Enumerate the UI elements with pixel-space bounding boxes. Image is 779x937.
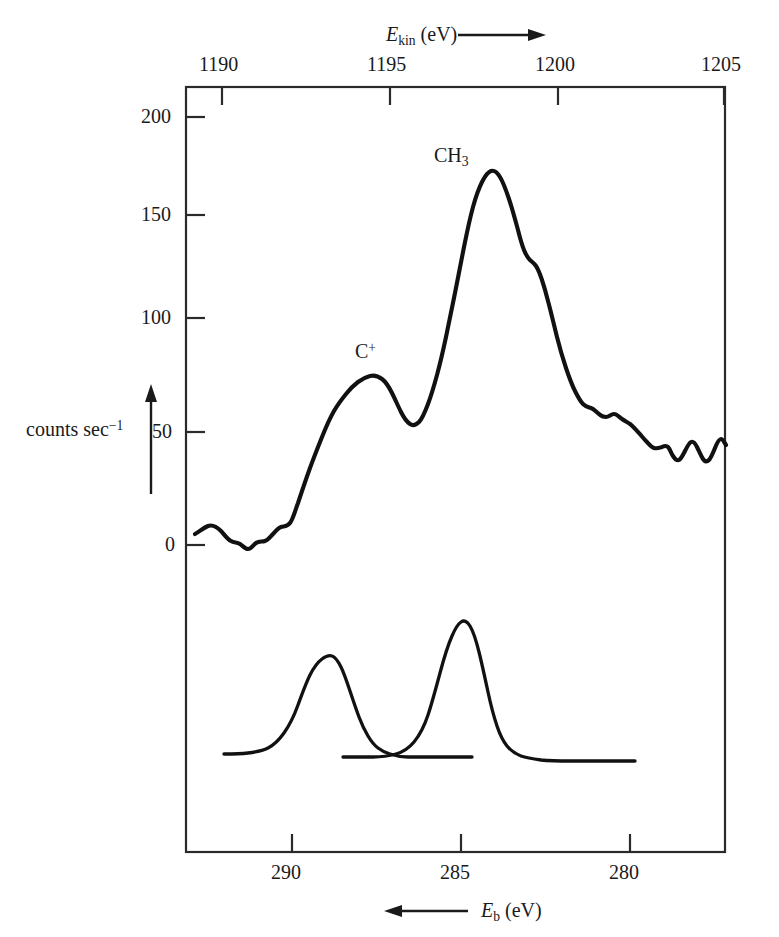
fitted-component-ch3-curve	[343, 621, 635, 761]
bottom-axis-title: Eb (eV)	[481, 900, 542, 923]
peak-label-c-plus-sup: +	[368, 340, 376, 355]
bottom-axis-arrow	[384, 905, 468, 917]
top-axis-subscript: kin	[398, 33, 415, 48]
plot-canvas	[0, 0, 779, 937]
top-tick-label-1205: 1205	[701, 54, 741, 74]
top-axis-title: Ekin (eV)	[386, 24, 457, 47]
y-axis-label-main: counts sec	[26, 418, 109, 440]
top-tick-label-1195: 1195	[367, 54, 406, 74]
peak-label-ch3-symbol: CH	[434, 144, 462, 166]
bottom-tick-label-280: 280	[609, 862, 639, 882]
peak-label-ch3: CH3	[434, 145, 469, 168]
peak-label-c-plus-symbol: C	[355, 340, 368, 362]
top-tick-label-1190: 1190	[199, 54, 238, 74]
y-axis-title: counts sec−1	[26, 419, 123, 439]
peak-label-c-plus: C+	[355, 341, 376, 361]
y-tick-label-200: 200	[141, 106, 171, 126]
plot-frame	[186, 87, 725, 852]
top-axis-arrow	[458, 29, 546, 41]
bottom-axis-subscript: b	[493, 909, 500, 924]
y-axis-ticks	[186, 117, 205, 545]
top-tick-label-1200: 1200	[535, 54, 575, 74]
y-axis-label-exponent: −1	[109, 418, 123, 433]
bottom-tick-label-290: 290	[271, 862, 301, 882]
top-axis-symbol: E	[386, 23, 398, 45]
peak-label-ch3-sub: 3	[462, 154, 469, 169]
y-tick-label-0: 0	[165, 534, 175, 554]
top-axis-ticks	[222, 87, 724, 105]
y-tick-label-100: 100	[141, 307, 171, 327]
y-tick-label-150: 150	[141, 204, 171, 224]
bottom-axis-unit: (eV)	[505, 899, 542, 921]
top-axis-unit: (eV)	[421, 23, 458, 45]
bottom-axis-symbol: E	[481, 899, 493, 921]
fitted-component-c-plus-curve	[224, 656, 472, 757]
y-tick-label-50: 50	[152, 421, 172, 441]
xps-spectrum-figure: Ekin (eV) 1190 1195 1200 1205 200 150 10…	[0, 0, 779, 937]
measured-spectrum-curve	[195, 171, 726, 549]
bottom-tick-label-285: 285	[440, 862, 470, 882]
bottom-axis-ticks	[292, 834, 630, 852]
